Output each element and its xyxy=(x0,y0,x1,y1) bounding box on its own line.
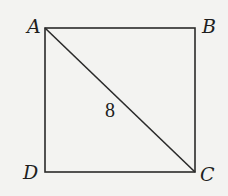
vertex-label-d: D xyxy=(23,163,38,182)
vertex-label-c: C xyxy=(200,165,215,184)
diagonal-AC xyxy=(45,28,195,172)
diagonal-length-label: 8 xyxy=(105,100,115,120)
vertex-label-b: B xyxy=(202,17,216,36)
vertex-label-a: A xyxy=(27,17,41,36)
diagram-canvas: A B D C 8 xyxy=(0,0,228,196)
